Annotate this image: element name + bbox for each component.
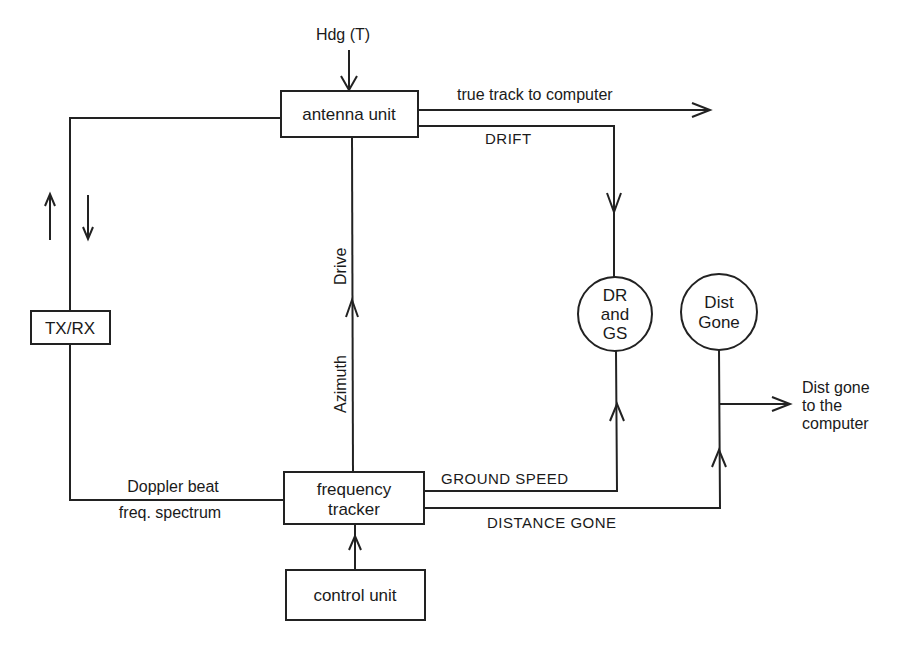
freq-spectrum-label: freq. spectrum (119, 504, 221, 521)
dist-gone-label-line1: Dist (704, 293, 734, 312)
true-track-label: true track to computer (457, 86, 613, 103)
azimuth-label: Azimuth (332, 355, 349, 413)
control-unit-label: control unit (313, 586, 396, 605)
antenna-txrx-line (70, 118, 281, 311)
dist-out-label-line3: computer (802, 415, 869, 432)
frequency-tracker-label-line2: tracker (328, 500, 380, 519)
dist-gone-indicator (681, 274, 757, 350)
heading-input-label: Hdg (T) (316, 26, 370, 43)
dist-out-label-line1: Dist gone (802, 379, 870, 396)
dist-out-label-line2: to the (802, 397, 842, 414)
drift-line (418, 126, 614, 277)
distance-gone-label: DISTANCE GONE (487, 514, 617, 531)
dr-gs-label-line2: and (601, 305, 629, 324)
doppler-beat-label: Doppler beat (127, 478, 219, 495)
dr-gs-label-line1: DR (603, 286, 628, 305)
tx-rx-label: TX/RX (45, 319, 95, 338)
antenna-unit-label: antenna unit (302, 105, 396, 124)
doppler-spectrum-line (70, 344, 284, 500)
frequency-tracker-label-line1: frequency (317, 480, 392, 499)
doppler-block-diagram: Hdg (T) antenna unit true track to compu… (0, 0, 916, 657)
dist-gone-label-line2: Gone (698, 313, 740, 332)
ground-speed-label: GROUND SPEED (441, 470, 569, 487)
drift-label: DRIFT (485, 130, 532, 147)
dr-gs-label-line3: GS (603, 324, 628, 343)
drive-label: Drive (332, 248, 349, 285)
